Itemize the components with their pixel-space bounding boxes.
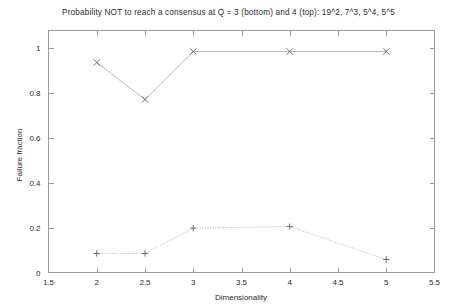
y-tick-label: 0.2 bbox=[29, 224, 41, 233]
marker-plus-icon bbox=[94, 250, 100, 256]
x-axis-label: Dimensionality bbox=[215, 293, 267, 302]
marker-plus-icon bbox=[383, 256, 389, 262]
marker-x-icon bbox=[142, 96, 148, 102]
plot-area: 1.522.533.544.555.5 00.20.40.60.81 Dimen… bbox=[0, 0, 457, 308]
x-tick-label: 2 bbox=[95, 278, 100, 287]
y-axis-ticks: 00.20.40.60.81 bbox=[29, 44, 434, 277]
x-tick-label: 1.5 bbox=[43, 278, 55, 287]
x-tick-label: 2.5 bbox=[139, 278, 151, 287]
marker-x-icon bbox=[94, 59, 100, 65]
y-axis-label: Failure fraction bbox=[15, 129, 24, 182]
x-tick-label: 4.5 bbox=[332, 278, 344, 287]
y-tick-label: 0 bbox=[36, 269, 41, 278]
y-tick-label: 1 bbox=[36, 44, 41, 53]
series-line-1 bbox=[97, 227, 387, 260]
x-tick-label: 5.5 bbox=[429, 278, 441, 287]
chart-page: Probability NOT to reach a consensus at … bbox=[0, 0, 457, 308]
y-tick-label: 0.4 bbox=[29, 179, 41, 188]
marker-plus-icon bbox=[190, 225, 196, 231]
data-series-group bbox=[94, 48, 390, 262]
marker-plus-icon bbox=[142, 250, 148, 256]
y-tick-label: 0.6 bbox=[29, 134, 41, 143]
series-line-0 bbox=[97, 52, 387, 100]
x-tick-label: 4 bbox=[288, 278, 293, 287]
x-axis-ticks: 1.522.533.544.555.5 bbox=[43, 31, 441, 287]
marker-plus-icon bbox=[287, 223, 293, 229]
x-tick-label: 3 bbox=[191, 278, 196, 287]
y-tick-label: 0.8 bbox=[29, 89, 41, 98]
axis-frame bbox=[49, 31, 435, 273]
x-tick-label: 5 bbox=[384, 278, 389, 287]
x-tick-label: 3.5 bbox=[236, 278, 248, 287]
